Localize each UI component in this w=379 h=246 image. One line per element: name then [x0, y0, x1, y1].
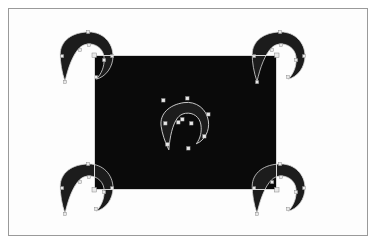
anchor-node: [164, 122, 168, 126]
anchor-node: [181, 118, 185, 122]
handle-top-right: [275, 53, 280, 58]
drawing-canvas[interactable]: [0, 0, 379, 246]
handle-top-left: [92, 53, 97, 58]
anchor-node: [187, 147, 191, 151]
handle-bottom-right: [275, 188, 280, 193]
anchor-node: [166, 143, 170, 147]
handle-bottom-left: [92, 188, 97, 193]
anchor-node: [186, 97, 190, 101]
application-window: [0, 0, 379, 246]
artboard-rectangle[interactable]: [94, 55, 277, 190]
anchor-node: [207, 113, 211, 117]
anchor-node: [190, 122, 194, 126]
vector-artwork-svg[interactable]: [0, 0, 379, 246]
anchor-node: [162, 99, 166, 103]
anchor-node: [203, 135, 207, 139]
anchor-node: [177, 121, 181, 125]
